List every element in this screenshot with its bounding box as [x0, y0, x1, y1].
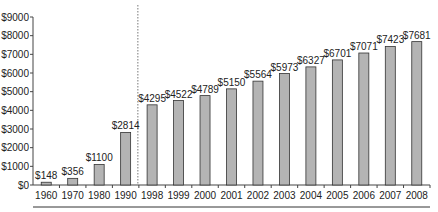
x-category-label: 1980 — [88, 190, 111, 201]
x-category-label: 2000 — [194, 190, 217, 201]
y-tick-label: $9000 — [1, 12, 29, 23]
bar — [147, 105, 157, 185]
y-tick-label: $7000 — [1, 49, 29, 60]
bar — [94, 164, 104, 185]
bar — [41, 182, 51, 185]
x-category-label: 2005 — [326, 190, 349, 201]
bar-value-label: $356 — [62, 166, 85, 177]
x-category-label: 2007 — [379, 190, 402, 201]
y-tick-label: $0 — [18, 180, 30, 191]
y-tick-label: $5000 — [1, 86, 29, 97]
x-category-label: 2001 — [220, 190, 243, 201]
bar — [385, 46, 395, 185]
x-category-label: 2008 — [406, 190, 429, 201]
x-category-label: 2003 — [273, 190, 296, 201]
bar-value-label: $7681 — [403, 30, 431, 41]
bar-value-label: $1100 — [86, 152, 114, 163]
bar-value-label: $4522 — [165, 89, 193, 100]
x-category-label: 2002 — [247, 190, 270, 201]
bar-value-label: $7071 — [350, 41, 378, 52]
bar — [279, 74, 289, 185]
bar — [332, 60, 342, 185]
bar-value-label: $7423 — [376, 34, 404, 45]
y-tick-label: $6000 — [1, 68, 29, 79]
y-tick-label: $3000 — [1, 124, 29, 135]
bar — [412, 42, 422, 185]
y-tick-label: $4000 — [1, 105, 29, 116]
chart-canvas: $0$1000$2000$3000$4000$5000$6000$7000$80… — [0, 0, 438, 212]
bar-value-label: $5564 — [244, 69, 272, 80]
y-tick-label: $2000 — [1, 142, 29, 153]
x-category-label: 2004 — [300, 190, 323, 201]
x-category-label: 2006 — [353, 190, 376, 201]
x-category-label: 1970 — [62, 190, 85, 201]
x-category-label: 1960 — [35, 190, 58, 201]
bar-value-label: $6701 — [323, 48, 351, 59]
x-category-label: 1999 — [167, 190, 190, 201]
y-tick-label: $8000 — [1, 30, 29, 41]
bar — [174, 101, 184, 185]
x-category-label: 1990 — [115, 190, 138, 201]
bar-value-label: $6327 — [297, 55, 325, 66]
bar-value-label: $5973 — [271, 62, 299, 73]
bar — [68, 178, 78, 185]
bar — [359, 53, 369, 185]
bar — [306, 67, 316, 185]
bar — [121, 132, 131, 185]
bar-value-label: $148 — [35, 170, 58, 181]
y-tick-label: $1000 — [1, 161, 29, 172]
bar-value-label: $4789 — [191, 84, 219, 95]
bar-value-label: $2814 — [112, 120, 140, 131]
bar-chart: $0$1000$2000$3000$4000$5000$6000$7000$80… — [0, 0, 438, 212]
bar-value-label: $4295 — [138, 93, 166, 104]
bar — [200, 96, 210, 185]
bar — [227, 89, 237, 185]
bar — [253, 81, 263, 185]
bar-value-label: $5150 — [218, 77, 246, 88]
x-category-label: 1998 — [141, 190, 164, 201]
